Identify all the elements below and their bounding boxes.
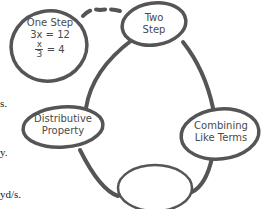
combining-node: Combining Like Terms <box>186 120 256 143</box>
text-fragment: yd/s. <box>0 189 21 200</box>
connector-distributive-two-step <box>86 40 132 108</box>
connector-combining-blank <box>192 158 212 192</box>
fraction: x 3 <box>35 40 43 59</box>
blank-oval <box>118 165 192 209</box>
dashed-connector <box>83 9 123 16</box>
flow-diagram: One Step 3x = 12 x 3 = 4 Two Step Distri… <box>0 0 262 209</box>
one-step-equation: 3x = 12 <box>22 29 78 41</box>
distributive-node: Distributive Property <box>25 113 101 136</box>
connector-two-step-combining <box>183 42 213 108</box>
one-step-node: One Step 3x = 12 x 3 = 4 <box>22 17 78 59</box>
combining-title-line2: Like Terms <box>186 132 256 144</box>
distributive-title-line2: Property <box>25 125 101 137</box>
two-step-title: Two <box>130 12 178 24</box>
text-fragment: s. <box>0 98 7 109</box>
combining-title: Combining <box>186 120 256 132</box>
two-step-node: Two Step <box>130 12 178 35</box>
connector-blank-distributive <box>80 150 118 196</box>
two-step-title-line2: Step <box>130 24 178 36</box>
one-step-title: One Step <box>22 17 78 29</box>
text-fragment: y. <box>0 147 8 158</box>
distributive-title: Distributive <box>25 113 101 125</box>
one-step-fraction-equation: x 3 = 4 <box>22 40 78 59</box>
